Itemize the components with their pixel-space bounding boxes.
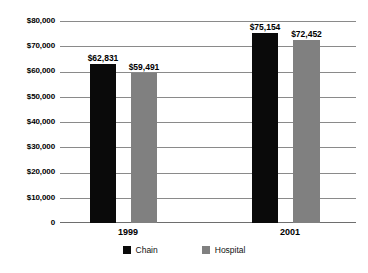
chart-legend: Chain Hospital (0, 246, 368, 255)
x-axis-tick-label-1999: 1999 (98, 228, 158, 237)
gray-square-swatch-icon (202, 246, 210, 254)
bar-chart: $80,000 $70,000 $60,000 $50,000 $40,000 … (0, 0, 368, 273)
bar-value-label-hospital-2001: $72,452 (281, 30, 332, 39)
gridline (60, 21, 356, 22)
y-axis-tick-label: $10,000 (0, 194, 55, 202)
y-axis-tick-label: $30,000 (0, 143, 55, 151)
legend-label-hospital: Hospital (215, 246, 246, 255)
y-axis-tick-label: 0 (0, 219, 55, 227)
legend-item-hospital[interactable]: Hospital (202, 246, 246, 255)
y-axis-tick-label: $70,000 (0, 42, 55, 50)
plot-area: $62,831 $59,491 $75,154 $72,452 (60, 21, 356, 223)
y-axis-tick-label: $80,000 (0, 17, 55, 25)
bar-hospital-1999[interactable] (131, 73, 157, 223)
y-axis-tick-label: $20,000 (0, 168, 55, 176)
bar-chain-2001[interactable] (252, 33, 278, 223)
legend-item-chain[interactable]: Chain (123, 246, 158, 255)
legend-label-chain: Chain (136, 246, 158, 255)
bar-chain-1999[interactable] (90, 64, 116, 223)
bar-value-label-chain-1999: $62,831 (78, 54, 128, 63)
y-axis-tick-label: $60,000 (0, 67, 55, 75)
x-axis-tick-label-2001: 2001 (260, 228, 320, 237)
bar-value-label-hospital-1999: $59,491 (119, 63, 169, 72)
y-axis-tick-label: $50,000 (0, 93, 55, 101)
black-square-swatch-icon (123, 246, 131, 254)
bar-hospital-2001[interactable] (293, 40, 320, 223)
y-axis-tick-label: $40,000 (0, 118, 55, 126)
